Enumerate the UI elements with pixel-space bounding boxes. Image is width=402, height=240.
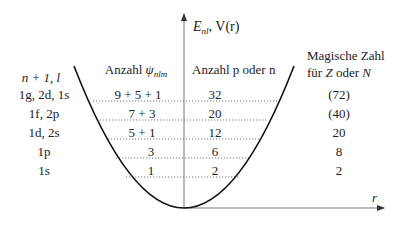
header-levels: n + 1, l bbox=[22, 71, 60, 84]
header-magic-number: Magische Zahl für Z oder N bbox=[307, 47, 385, 81]
header-count: Anzahl p oder n bbox=[192, 63, 275, 76]
header-states: Anzahl ψnlm bbox=[105, 63, 167, 79]
x-axis-label: r bbox=[372, 191, 377, 204]
energy-level-lines bbox=[93, 101, 278, 177]
y-axis-label: Enl, V(r) bbox=[193, 20, 239, 36]
